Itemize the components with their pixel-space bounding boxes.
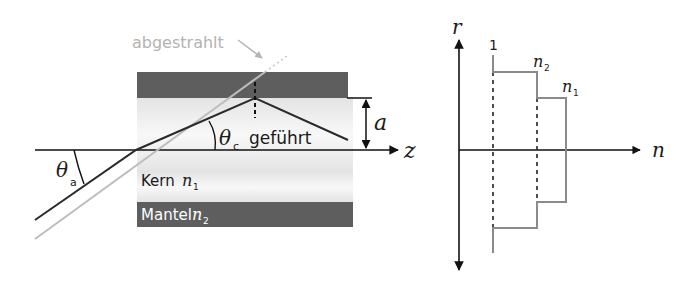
critical-angle-subscript: c [233,140,239,153]
radiated-label: abgestrahlt [132,33,224,52]
core-index-subscript: 1 [193,182,199,192]
core-index: n [182,171,192,190]
core-level-label: n [562,77,572,96]
acceptance-angle-subscript: a [70,176,77,189]
cladding-level-subscript: 2 [544,63,550,73]
fiber-diagram: z abgestrahlt θ a θ c geführt Kern n 1 M… [0,0,691,283]
radiated-pointer-arrow [238,40,262,58]
fiber-cladding-top [137,72,348,98]
cladding-label: Mantel [141,206,192,224]
core-level-subscript: 1 [573,88,579,98]
r-axis-label: r [452,15,463,39]
air-index-label: 1 [489,37,498,53]
cladding-index-subscript: 2 [203,216,209,226]
n-axis-label: n [652,138,665,162]
cladding-level-label: n [533,52,543,71]
index-profile [493,55,566,253]
cladding-index: n [192,205,202,224]
core-label: Kern [141,172,175,190]
critical-angle-symbol: θ [219,126,231,150]
radius-label: a [374,110,387,135]
guided-label: geführt [249,128,312,148]
acceptance-angle-symbol: θ [56,158,68,182]
radiated-ray-dotted [265,56,287,72]
z-axis-label: z [403,138,416,163]
